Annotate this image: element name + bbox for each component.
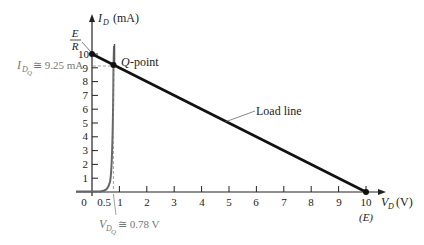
svg-text:4: 4 bbox=[199, 196, 205, 208]
svg-text:Q: Q bbox=[27, 69, 32, 77]
y-intercept-point bbox=[89, 51, 95, 57]
svg-text:5: 5 bbox=[226, 196, 232, 208]
svg-text:-point: -point bbox=[130, 55, 159, 69]
svg-text:Q: Q bbox=[121, 55, 130, 69]
y-axis-title: I D (mA) bbox=[97, 11, 139, 27]
svg-text:E: E bbox=[71, 27, 79, 39]
svg-text:(mA): (mA) bbox=[113, 11, 139, 25]
svg-text:(V): (V) bbox=[396, 195, 413, 209]
svg-text:5: 5 bbox=[83, 117, 89, 129]
svg-text:2: 2 bbox=[83, 158, 89, 170]
svg-text:Q: Q bbox=[111, 228, 116, 236]
e-intercept-label: (E) bbox=[359, 211, 373, 224]
svg-text:1: 1 bbox=[117, 196, 123, 208]
load-line bbox=[92, 54, 366, 192]
x-intercept-point bbox=[363, 189, 369, 195]
svg-text:0.5: 0.5 bbox=[97, 196, 111, 208]
svg-text:D: D bbox=[102, 18, 109, 27]
svg-text:1: 1 bbox=[83, 172, 89, 184]
y-ticks bbox=[92, 54, 98, 178]
vdq-annotation: V D Q ≅ 0.78 V bbox=[99, 217, 160, 236]
load-line-label: Load line bbox=[256, 104, 302, 118]
x-ticks bbox=[119, 186, 366, 192]
load-line-leader bbox=[225, 111, 255, 122]
svg-text:R: R bbox=[71, 40, 79, 52]
y-axis-arrow-icon bbox=[89, 14, 95, 22]
svg-text:D: D bbox=[387, 202, 394, 211]
svg-text:4: 4 bbox=[83, 130, 89, 142]
svg-text:0: 0 bbox=[81, 196, 87, 208]
svg-text:2: 2 bbox=[144, 196, 150, 208]
svg-text:7: 7 bbox=[83, 89, 89, 101]
svg-text:3: 3 bbox=[83, 144, 89, 156]
svg-text:≅ 9.25 mA: ≅ 9.25 mA bbox=[33, 59, 83, 71]
svg-text:≅ 0.78 V: ≅ 0.78 V bbox=[118, 218, 160, 230]
svg-text:9: 9 bbox=[83, 62, 89, 74]
svg-text:7: 7 bbox=[281, 196, 287, 208]
q-point-marker bbox=[111, 62, 117, 68]
diode-load-line-diagram: 1 2 3 4 5 6 7 8 9 10 0 0.5 1 2 3 4 5 6 7… bbox=[0, 0, 424, 245]
svg-text:9: 9 bbox=[336, 196, 342, 208]
q-point-label: Q -point bbox=[121, 55, 159, 69]
idq-annotation: I D Q ≅ 9.25 mA bbox=[16, 58, 83, 77]
x-tick-labels: 0 0.5 1 2 3 4 5 6 7 8 9 10 bbox=[81, 196, 372, 208]
vdq-leader bbox=[113, 194, 116, 215]
svg-text:10: 10 bbox=[361, 196, 373, 208]
svg-text:8: 8 bbox=[308, 196, 314, 208]
svg-text:3: 3 bbox=[171, 196, 177, 208]
svg-text:6: 6 bbox=[83, 103, 89, 115]
svg-text:8: 8 bbox=[83, 75, 89, 87]
svg-text:6: 6 bbox=[253, 196, 259, 208]
x-axis-title: V D (V) bbox=[381, 195, 413, 211]
